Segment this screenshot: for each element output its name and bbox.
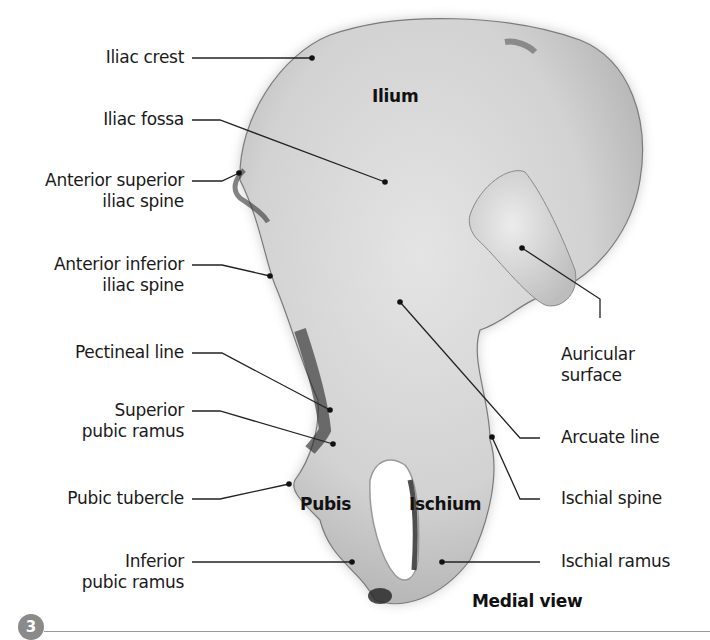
figure-number-badge: 3 bbox=[18, 614, 44, 640]
label-pectineal-line: Pectineal line bbox=[75, 342, 184, 363]
label-iliac-fossa: Iliac fossa bbox=[103, 109, 184, 130]
label-auricular-surface: Auricular surface bbox=[561, 344, 635, 386]
label-inferior-pubic-ramus: Inferior pubic ramus bbox=[82, 551, 184, 593]
label-iliac-crest: Iliac crest bbox=[106, 47, 184, 68]
label-pubic-tubercle: Pubic tubercle bbox=[67, 488, 184, 509]
label-arcuate-line: Arcuate line bbox=[561, 427, 659, 448]
region-label-ischium: Ischium bbox=[409, 494, 481, 514]
region-label-ilium: Ilium bbox=[372, 86, 418, 106]
label-anterior-superior-iliac-spine: Anterior superior iliac spine bbox=[45, 170, 184, 212]
view-caption: Medial view bbox=[472, 591, 583, 611]
label-ischial-spine: Ischial spine bbox=[561, 488, 662, 509]
label-ischial-ramus: Ischial ramus bbox=[561, 551, 670, 572]
hip-bone-shape bbox=[240, 19, 643, 604]
bottom-divider bbox=[44, 631, 710, 632]
region-label-pubis: Pubis bbox=[300, 494, 351, 514]
label-anterior-inferior-iliac-spine: Anterior inferior iliac spine bbox=[54, 254, 184, 296]
label-superior-pubic-ramus: Superior pubic ramus bbox=[82, 400, 184, 442]
